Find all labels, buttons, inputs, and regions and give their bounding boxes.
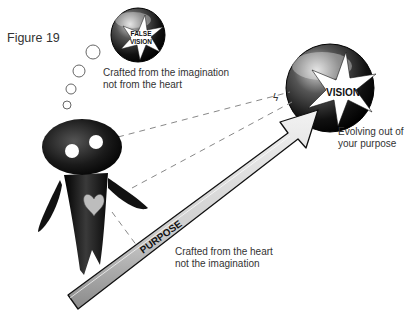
diagram-svg: ϟ PURPOSE FALSE VISION VISION [0,0,406,323]
cropped-top-text [0,0,406,2]
left-eye [65,144,79,158]
false-vision-badge-line2: VISION [130,38,152,45]
body [64,173,108,275]
vision-badge: VISION [326,87,360,98]
false-vision-caption-line2: not from the heart [103,79,229,91]
vision-caption: Evolving out of your purpose [338,126,404,150]
figure-title: Figure 19 [7,31,60,45]
purpose-caption: Crafted from the heart not the imaginati… [175,246,273,270]
lightning-icon: ϟ [273,92,279,103]
false-vision-caption-line1: Crafted from the imagination [103,67,229,79]
purpose-caption-line2: not the imagination [175,258,273,270]
sight-lines [112,92,292,250]
right-eye [89,135,103,149]
head [42,119,122,175]
vision-caption-line1: Evolving out of [338,126,404,138]
false-vision-caption: Crafted from the imagination not from th… [103,67,229,91]
false-vision-badge-line1: FALSE [131,30,153,37]
diagram-canvas: ϟ PURPOSE FALSE VISION VISION Figure 19 [0,0,406,323]
vision-caption-line2: your purpose [338,138,404,150]
thought-bubbles [63,45,100,109]
purpose-caption-line1: Crafted from the heart [175,246,273,258]
left-arm [38,180,62,232]
